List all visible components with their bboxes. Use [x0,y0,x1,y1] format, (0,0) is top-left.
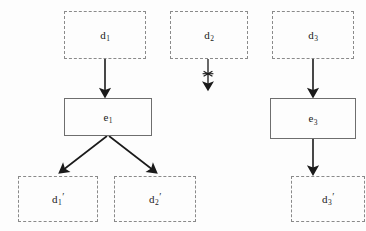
node-e1-label: e1 [103,112,112,123]
node-d1[interactable]: d1 [64,11,146,59]
node-d1-label: d1 [100,30,110,41]
node-d2-prime[interactable]: d2′ [114,176,196,222]
edge-e1-to-d1p [63,136,107,170]
node-d2-prime-label: d2′ [149,194,161,205]
node-d3[interactable]: d3 [272,11,354,59]
node-d3-prime-label: d3′ [322,194,334,205]
node-e1[interactable]: e1 [64,98,152,136]
node-d1-prime-label: d1′ [52,194,64,205]
node-d2[interactable]: d2 [170,11,248,59]
node-e3-label: e3 [308,113,317,124]
node-d3-label: d3 [308,30,318,41]
node-d2-label: d2 [204,30,214,41]
node-d3-prime[interactable]: d3′ [291,176,365,222]
edge-e1-to-d2p [109,136,153,170]
node-d1-prime[interactable]: d1′ [18,176,98,222]
node-e3[interactable]: e3 [270,98,356,139]
diagram-canvas: d1 d2 d3 e1 e3 d1′ d2′ d3′ [0,0,366,231]
edge-d2-dangling [203,59,214,85]
